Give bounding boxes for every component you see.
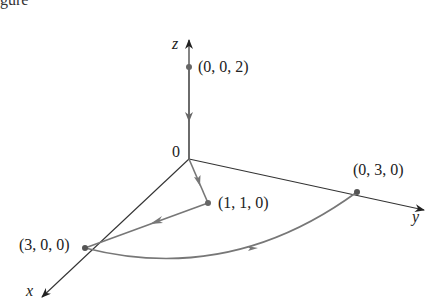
segment-to-300 bbox=[85, 203, 208, 248]
point-label-030: (0, 3, 0) bbox=[353, 162, 404, 178]
point-030 bbox=[354, 189, 360, 195]
z-axis-label: z bbox=[172, 36, 178, 52]
point-300 bbox=[82, 245, 88, 251]
origin-label: 0 bbox=[172, 144, 180, 160]
path-diagram bbox=[0, 0, 443, 305]
y-axis-label: y bbox=[412, 209, 419, 225]
point-002 bbox=[186, 64, 192, 70]
x-axis-label: x bbox=[26, 283, 33, 299]
point-label-002: (0, 0, 2) bbox=[198, 59, 249, 75]
point-label-300: (3, 0, 0) bbox=[19, 237, 70, 253]
x-axis bbox=[42, 159, 189, 297]
point-label-110: (1, 1, 0) bbox=[218, 195, 269, 211]
point-110 bbox=[205, 200, 211, 206]
arrow-on-arc bbox=[247, 246, 258, 251]
